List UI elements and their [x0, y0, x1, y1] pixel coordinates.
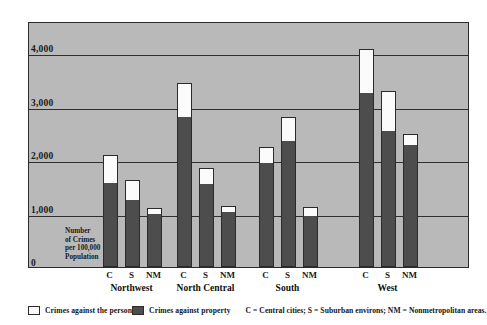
y-axis-caption-line-2: of Crimes — [65, 236, 100, 245]
x-sub-label-south-c: C — [262, 270, 269, 280]
legend-swatch-person-icon — [28, 306, 40, 315]
x-sub-label-west-nm: NM — [402, 270, 417, 280]
bar-segment-person — [359, 49, 374, 93]
y-axis-caption-line-3: per 100,000 — [65, 244, 100, 253]
x-sub-label-south-nm: NM — [302, 270, 317, 280]
x-sub-label-north-central-s: S — [203, 270, 208, 280]
bar-segment-property — [199, 184, 214, 267]
y-tick-label-0: 0 — [31, 258, 36, 269]
bar-segment-person — [103, 155, 118, 183]
bar-segment-person — [221, 206, 236, 213]
bar-segment-property — [303, 216, 318, 267]
x-sub-label-northwest-s: S — [129, 270, 134, 280]
gridline-4000 — [29, 55, 468, 56]
x-group-label-south: South — [276, 283, 300, 293]
bar-segment-property — [259, 163, 274, 267]
bar-segment-property — [125, 200, 140, 267]
bar-segment-person — [147, 208, 162, 213]
legend-label-person: Crimes against the person — [45, 306, 132, 315]
bar-segment-person — [403, 134, 418, 145]
x-sub-label-south-s: S — [285, 270, 290, 280]
x-group-label-north-central: North Central — [177, 283, 235, 293]
bar-segment-property — [381, 131, 396, 267]
bar-segment-property — [359, 93, 374, 267]
gridline-3000 — [29, 109, 468, 110]
x-axis-labels: CSNMNorthwestCSNMNorth CentralCSNMSouthC… — [28, 270, 469, 300]
x-sub-label-northwest-c: C — [106, 270, 113, 280]
legend-label-property: Crimes against property — [149, 306, 230, 315]
bar-segment-property — [403, 145, 418, 267]
x-sub-label-west-s: S — [385, 270, 390, 280]
y-tick-label-1000: 1,000 — [31, 205, 53, 216]
bar-segment-person — [381, 91, 396, 131]
x-sub-label-north-central-nm: NM — [220, 270, 235, 280]
plot-frame: 01,0002,0003,0004,000 Number of Crimes p… — [28, 22, 469, 268]
bar-segment-person — [177, 83, 192, 118]
y-axis-caption-line-1: Number — [65, 227, 100, 236]
bar-segment-person — [125, 180, 140, 200]
y-axis-caption-line-4: Population — [65, 253, 100, 262]
y-tick-label-4000: 4,000 — [31, 44, 53, 55]
y-tick-label-2000: 2,000 — [31, 151, 53, 162]
bar-segment-property — [147, 214, 162, 267]
legend-entry-property: Crimes against property — [132, 306, 230, 315]
bar-segment-property — [221, 212, 236, 267]
x-sub-label-north-central-c: C — [180, 270, 187, 280]
bar-segment-person — [259, 147, 274, 163]
x-sub-label-northwest-nm: NM — [146, 270, 161, 280]
chart-legend: Crimes against the person Crimes against… — [28, 306, 478, 315]
legend-swatch-property-icon — [132, 306, 144, 315]
x-group-label-west: West — [377, 283, 397, 293]
y-axis-caption: Number of Crimes per 100,000 Population — [65, 227, 100, 262]
y-tick-label-3000: 3,000 — [31, 98, 53, 109]
bar-segment-person — [199, 168, 214, 184]
bar-segment-property — [177, 117, 192, 267]
legend-entry-person: Crimes against the person — [28, 306, 132, 315]
legend-abbreviation-note: C = Central cities; S = Suburban environ… — [246, 306, 487, 315]
x-group-label-northwest: Northwest — [110, 283, 152, 293]
bar-segment-person — [303, 207, 318, 216]
x-sub-label-west-c: C — [362, 270, 369, 280]
bar-segment-property — [103, 183, 118, 267]
bar-segment-person — [281, 117, 296, 141]
bar-segment-property — [281, 141, 296, 267]
